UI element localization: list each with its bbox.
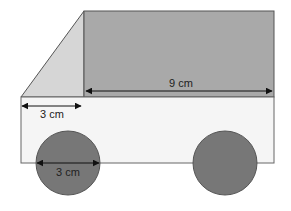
body-offset-label: 3 cm	[40, 108, 64, 120]
cab-slope-triangle	[21, 11, 84, 97]
cargo-length-label: 9 cm	[169, 77, 193, 89]
wheel-diameter-label: 3 cm	[56, 166, 80, 178]
right-wheel	[193, 131, 257, 195]
truck-diagram: 9 cm 3 cm 3 cm	[0, 0, 291, 211]
